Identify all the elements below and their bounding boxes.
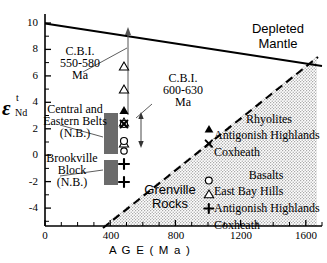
depleted-mantle-line-1: Depleted — [234, 22, 322, 37]
x-tick-label-800: 800 — [161, 229, 191, 241]
legend-entry-rhyolites-antigonish: Antigonish Highlands — [214, 128, 324, 143]
nd-isotope-evolution-chart: 10 8 6 4 2 0 -2 -4 ε t Nd 0 400 800 1200… — [0, 0, 327, 263]
epsilon-symbol: ε — [2, 96, 11, 121]
cbi-600-line-3: Ma — [146, 96, 220, 108]
data-marker-plus — [119, 159, 129, 187]
central-eastern-belts-annotation: Central and Eastern Belts (N.B.) — [29, 103, 121, 140]
cbi-550-580-annotation: C.B.I. 550-580 Ma — [42, 45, 118, 82]
epsilon-subscript-nd: Nd — [15, 107, 27, 118]
legend-heading-rhyolites: Rhyolites — [214, 112, 324, 127]
legend-entry-basalts-antigonish: Antigonish Highlands — [214, 201, 324, 216]
x-tick-label-0: 0 — [33, 229, 57, 241]
y-tick-label-10: 10 — [12, 16, 38, 28]
x-axis-title: A G E ( M a ) — [60, 245, 240, 257]
cbi-550-line-3: Ma — [42, 69, 118, 81]
y-tick-label-6: 6 — [12, 69, 38, 81]
legend-entry-basalts-east-bay-hills: East Bay Hills — [214, 184, 324, 199]
legend-entry-basalts-coxheath: Coxheath — [214, 218, 324, 233]
legend: Rhyolites Antigonish Highlands Coxheath … — [196, 112, 324, 233]
y-tick-label-neg4: -4 — [12, 201, 38, 213]
legend-entry-rhyolites-coxheath: Coxheath — [214, 145, 324, 160]
epsilon-superscript-t: t — [16, 92, 19, 103]
depleted-mantle-label: Depleted Mantle — [234, 22, 322, 51]
upward-range-arrow — [125, 27, 131, 115]
cbi-600-630-range-arrow — [138, 112, 143, 148]
y-tick-label-8: 8 — [12, 42, 38, 54]
x-tick-label-400: 400 — [96, 229, 126, 241]
cbi-600-630-annotation: C.B.I. 600-630 Ma — [146, 72, 220, 109]
depleted-mantle-line-2: Mantle — [234, 37, 322, 52]
legend-heading-basalts: Basalts — [214, 168, 318, 183]
brookville-block-annotation: Brookville Block (N.B.) — [29, 152, 115, 189]
brookville-line-3: (N.B.) — [29, 176, 115, 188]
central-line-3: (N.B.) — [29, 127, 121, 139]
